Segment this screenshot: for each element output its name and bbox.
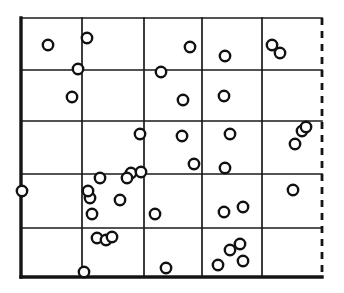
data-point-circle bbox=[161, 263, 171, 273]
scatter-plot-canvas bbox=[0, 0, 344, 293]
data-point-circle bbox=[288, 185, 298, 195]
data-point-circle bbox=[185, 42, 195, 52]
data-point-circle bbox=[219, 91, 229, 101]
data-point-circle bbox=[219, 207, 229, 217]
data-point-circle bbox=[136, 167, 146, 177]
data-point-circle bbox=[213, 260, 223, 270]
data-point-circle bbox=[107, 232, 117, 242]
data-point-circle bbox=[79, 267, 89, 277]
data-point-circle bbox=[220, 51, 230, 61]
data-point-circle bbox=[82, 33, 92, 43]
data-point-circle bbox=[177, 131, 187, 141]
data-point-circle bbox=[178, 95, 188, 105]
data-point-circle bbox=[122, 173, 132, 183]
data-point-circle bbox=[115, 195, 125, 205]
data-point-circle bbox=[150, 209, 160, 219]
data-point-circle bbox=[225, 245, 235, 255]
data-point-circle bbox=[87, 209, 97, 219]
data-point-circle bbox=[43, 40, 53, 50]
data-point-circle bbox=[275, 48, 285, 58]
data-point-circle bbox=[225, 129, 235, 139]
data-point-circle bbox=[135, 129, 145, 139]
data-point-circle bbox=[235, 239, 245, 249]
data-point-circle bbox=[290, 139, 300, 149]
data-point-circle bbox=[156, 67, 166, 77]
data-point-circle bbox=[95, 173, 105, 183]
data-point-circle bbox=[220, 163, 230, 173]
data-point-circle bbox=[73, 64, 83, 74]
data-point-circle bbox=[17, 186, 27, 196]
data-point-circle bbox=[67, 92, 77, 102]
data-point-circle bbox=[238, 202, 248, 212]
data-point-circle bbox=[238, 256, 248, 266]
data-point-circle bbox=[189, 159, 199, 169]
data-point-circle bbox=[301, 122, 311, 132]
quadrat-scatter-figure bbox=[0, 0, 344, 293]
data-point-circle bbox=[83, 186, 93, 196]
